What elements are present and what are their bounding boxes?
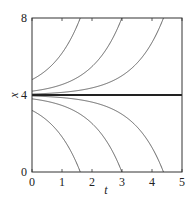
solution-curve [32,99,122,172]
y-tick-label: 8 [21,11,27,25]
x-tick-label: 1 [59,175,65,189]
y-axis-label: x [7,92,21,99]
solution-curve [32,110,80,172]
y-axis-ticks: 048 [21,11,27,179]
x-tick-label: 3 [119,175,125,189]
x-tick-label: 0 [29,175,35,189]
solution-curve [32,96,163,172]
x-tick-label: 2 [89,175,95,189]
solution-curve [32,18,80,80]
solution-curves-chart: 012345 048 t x [0,0,191,203]
x-axis-label: t [104,183,108,197]
x-axis-ticks: 012345 [29,18,185,189]
solution-curve [32,18,163,94]
solution-curve [32,18,122,91]
x-tick-label: 4 [149,175,155,189]
y-tick-label: 4 [21,88,27,102]
x-tick-label: 5 [179,175,185,189]
y-tick-label: 0 [21,165,27,179]
